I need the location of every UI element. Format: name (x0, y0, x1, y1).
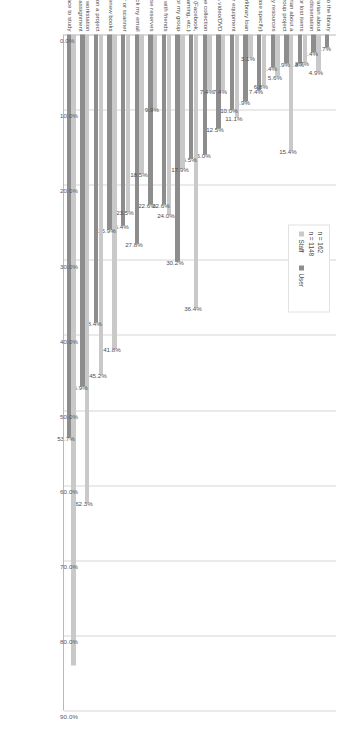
bar-group: 18.5%27.8% (132, 34, 146, 710)
bar-group: 36.4%16.5% (186, 34, 200, 710)
bar-group: 7.4%16.0% (200, 34, 214, 710)
category-label: Use a copier or scanner (122, 0, 129, 31)
bar-staff (180, 34, 184, 168)
bar-group: 53.7% (64, 34, 78, 710)
bar-staff (289, 34, 293, 150)
bar-user (162, 34, 166, 204)
value-label-staff: 11.1% (225, 116, 242, 122)
bar-group: 3.1%8.9% (241, 34, 255, 710)
rotated-chart-wrapper: I don't come to the libraryConsult with … (0, 0, 350, 745)
bar-user (94, 34, 98, 322)
bar-user (298, 34, 302, 63)
bar-user (148, 34, 152, 204)
value-label-staff: 45.2% (89, 372, 107, 378)
bar-user (271, 34, 275, 67)
bar-user (257, 34, 261, 90)
legend-swatch-user (299, 265, 304, 270)
bar-group: 24.0%22.6% (159, 34, 173, 710)
bar-group: 1.7% (322, 34, 336, 710)
bar-staff (126, 34, 130, 211)
category-label: Use a computer workstationfor a class as… (78, 0, 92, 31)
value-label-staff: 41.8% (103, 347, 121, 353)
bar-user (243, 34, 247, 101)
x-tick-label: 90.0% (60, 712, 78, 719)
bar-group: 62.3%46.9% (78, 34, 92, 710)
category-label: Other (please specify) (258, 0, 265, 31)
category-label: I don't come to the library (326, 0, 333, 31)
bar-staff (85, 34, 89, 502)
value-label-staff: 17.9% (171, 167, 189, 173)
x-tick-label: 80.0% (60, 637, 78, 644)
bar-staff (153, 34, 157, 108)
category-label: Take a class or workshop on library reso… (271, 0, 278, 31)
bar-staff (112, 34, 116, 348)
category-label: Consult with a librarian about aclass as… (282, 0, 296, 31)
x-tick-label: 70.0% (60, 562, 78, 569)
bar-staff (194, 34, 198, 307)
value-label-staff: 23.5% (116, 209, 134, 215)
value-label-staff: 15.4% (280, 149, 298, 155)
value-label-staff: 9.9% (145, 107, 159, 113)
bar-user (107, 34, 111, 229)
value-label-staff: 24.0% (157, 213, 175, 219)
legend-swatch-staff (299, 231, 304, 236)
legend-n-staff: n = 162 (317, 231, 324, 253)
category-label: Check my email (135, 0, 142, 31)
category-label: Watch a video/DVD (217, 0, 224, 31)
x-axis-line (63, 34, 64, 710)
bar-group: 11.1%10.0% (227, 34, 241, 710)
bar-group: 4.9%2.4% (309, 34, 323, 710)
plot-area: 1.7%4.9%2.4%3.7%3.8%15.4%3.9%5.6%4.4%6.8… (64, 34, 336, 710)
bar-staff (207, 34, 211, 90)
bar-group: 6.8%7.4% (254, 34, 268, 710)
category-label: Collaborate with others on a project (95, 0, 102, 31)
value-label-staff: 62.3% (76, 501, 94, 507)
x-tick-label: 10.0% (60, 111, 78, 118)
bar-user (67, 34, 71, 437)
chart-legend: n = 162 n = 1148 Staff User (288, 224, 330, 312)
bar-group: 17.9%30.2% (173, 34, 187, 710)
value-label-user: 53.7% (57, 436, 75, 442)
x-tick-label: 50.0% (60, 412, 78, 419)
bar-staff (303, 34, 307, 62)
x-tick-label: 60.0% (60, 487, 78, 494)
x-tick-label: 0.0% (60, 36, 75, 43)
bar-user (230, 34, 234, 109)
grouped-bar-chart: I don't come to the libraryConsult with … (0, 0, 350, 745)
bar-user (311, 34, 315, 52)
category-label: Use a computer workstations for personal… (186, 0, 200, 31)
value-label-staff: 36.4% (184, 306, 202, 312)
bar-group: 45.2%38.4% (91, 34, 105, 710)
category-label: Use course reserves (149, 0, 156, 31)
bar-staff (167, 34, 171, 214)
legend-label-user: User (298, 273, 305, 287)
category-label: Get a study or media room for my group (176, 0, 183, 31)
bar-staff (139, 34, 143, 173)
bar-staff (71, 34, 75, 665)
bar-staff (221, 34, 225, 90)
bar-user (80, 34, 84, 386)
value-label-staff: 5.6% (268, 75, 282, 81)
bar-user (216, 34, 220, 128)
category-label: Check out or renew books (108, 0, 115, 31)
value-label-staff: 18.5% (130, 172, 148, 178)
value-label-staff: 4.9% (308, 70, 322, 76)
category-label: Browse the collection (203, 0, 210, 31)
category-label: Consult with a librarian aboutmy thesis … (309, 0, 323, 31)
value-label-staff: 7.4% (213, 88, 227, 94)
bar-group: 3.7%3.8% (295, 34, 309, 710)
legend-label-staff: Staff (298, 239, 305, 252)
legend-n-user: n = 1148 (308, 231, 315, 256)
x-tick-label: 40.0% (60, 337, 78, 344)
category-axis: I don't come to the libraryConsult with … (64, 0, 336, 34)
bar-user (284, 34, 288, 63)
category-label: Comfortable, quiet place to study (67, 0, 74, 31)
x-tick-label: 20.0% (60, 186, 78, 193)
bar-user (189, 34, 193, 158)
x-tick-label: 30.0% (60, 262, 78, 269)
bar-group: 23.5%25.4% (118, 34, 132, 710)
bar-group: 15.4%3.9% (282, 34, 296, 710)
category-label: Use interlibrary loan (244, 0, 251, 31)
bar-staff (262, 34, 266, 85)
bar-user (135, 34, 139, 243)
